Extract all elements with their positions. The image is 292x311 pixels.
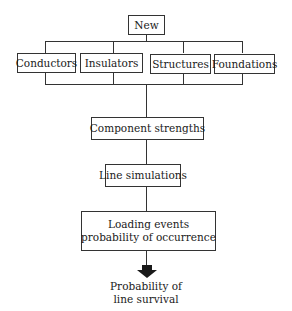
rise-foundations: [242, 74, 243, 84]
node-conductors: Conductors: [17, 53, 76, 73]
outcome-line2: line survival: [96, 293, 196, 306]
node-structures: Structures: [150, 54, 211, 74]
node-loading-events-line1: Loading events: [108, 218, 189, 231]
node-foundations-label: Foundations: [212, 58, 278, 71]
node-insulators: Insulators: [80, 53, 143, 73]
node-loading-events: Loading events probability of occurrence: [81, 211, 216, 251]
bottom-bus-line: [45, 84, 243, 85]
outcome-line1: Probability of: [96, 280, 196, 293]
connector-strengths-to-simulations: [146, 140, 147, 164]
drop-conductors: [45, 41, 46, 53]
rise-insulators: [113, 73, 114, 84]
connector-bus-to-strengths: [146, 84, 147, 117]
top-bus-line: [45, 41, 243, 42]
node-insulators-label: Insulators: [85, 57, 139, 70]
down-arrow-icon: [137, 265, 157, 278]
node-foundations: Foundations: [214, 54, 275, 74]
node-line-simulations: Line simulations: [105, 164, 181, 187]
drop-foundations: [242, 41, 243, 53]
rise-conductors: [45, 73, 46, 84]
outcome-label: Probability of line survival: [96, 280, 196, 306]
node-component-strengths-label: Component strengths: [90, 122, 205, 135]
node-conductors-label: Conductors: [16, 57, 77, 70]
node-line-simulations-label: Line simulations: [99, 169, 187, 182]
node-loading-events-line2: probability of occurrence: [81, 231, 216, 244]
node-structures-label: Structures: [152, 58, 209, 71]
node-new: New: [128, 15, 165, 35]
node-new-label: New: [134, 19, 158, 32]
rise-structures: [183, 74, 184, 84]
connector-simulations-to-loading: [146, 187, 147, 211]
drop-structures: [183, 41, 184, 53]
drop-insulators: [113, 41, 114, 53]
node-component-strengths: Component strengths: [91, 117, 204, 140]
